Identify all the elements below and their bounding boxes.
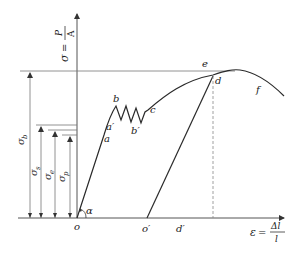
svg-text:l: l	[275, 234, 278, 244]
point-f-label: f	[255, 84, 262, 95]
svg-text:e: e	[48, 170, 56, 174]
point-d-label: d	[215, 75, 221, 86]
point-b-prime-label: b′	[131, 125, 140, 136]
svg-text:p: p	[62, 171, 70, 176]
svg-text:P: P	[54, 29, 64, 37]
svg-text:b: b	[21, 134, 29, 139]
y-axis-label: σ = P A	[54, 26, 76, 62]
point-o-prime-label: o′	[142, 223, 151, 234]
sigma-p-label: σ p	[56, 171, 70, 182]
svg-text:σ: σ	[58, 54, 71, 62]
point-o-label: o	[74, 221, 80, 232]
svg-text:Δl: Δl	[270, 221, 280, 231]
equals-sign: =	[258, 227, 266, 238]
point-d-prime-label: d′	[176, 223, 185, 234]
stress-strain-diagram: σ = P A ε = Δl l σ b σ s σ e σ p	[0, 0, 301, 258]
point-a-prime-label: a′	[106, 121, 115, 132]
sigma-e-label: σ e	[42, 170, 56, 180]
point-c-label: c	[150, 104, 156, 115]
point-e-label: e	[202, 58, 208, 69]
equals-sign: =	[59, 44, 70, 52]
svg-text:s: s	[34, 166, 42, 170]
svg-text:ε: ε	[250, 226, 256, 239]
unloading-line	[147, 76, 213, 218]
point-a-label: a	[104, 133, 110, 144]
point-b-label: b	[113, 93, 119, 104]
x-axis-label: ε = Δl l	[250, 221, 285, 244]
svg-text:A: A	[66, 30, 76, 38]
alpha-label: α	[86, 205, 93, 216]
sigma-b-label: σ b	[15, 134, 29, 145]
